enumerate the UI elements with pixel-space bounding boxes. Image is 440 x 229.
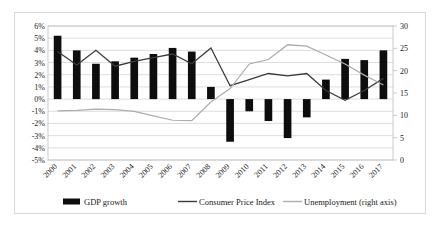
legend-swatch-bar bbox=[63, 199, 80, 205]
y-axis-tick-label: -1% bbox=[32, 107, 46, 116]
y-axis-tick-label: 5% bbox=[34, 34, 45, 43]
y-axis-tick-label: -2% bbox=[32, 119, 46, 128]
legend-label: GDP growth bbox=[84, 197, 128, 207]
x-axis-tick-label: 2004 bbox=[118, 162, 136, 180]
legend-label: Unemployment (right axis) bbox=[304, 197, 397, 207]
y2-axis-tick-label: 15 bbox=[400, 89, 408, 98]
x-axis-tick-label: 2014 bbox=[310, 162, 328, 180]
chart-plot-area: 6%5%4%3%2%1%0%-1%-2%-3%-4%-5% 3025201510… bbox=[15, 13, 425, 213]
bar-2002 bbox=[92, 64, 100, 99]
y-axis-tick-label: 4% bbox=[34, 46, 45, 55]
y2-axis-tick-label: 30 bbox=[400, 22, 408, 31]
y-axis-left-labels: 6%5%4%3%2%1%0%-1%-2%-3%-4%-5% bbox=[32, 22, 46, 165]
y-axis-tick-label: 6% bbox=[34, 22, 45, 31]
bar-2013 bbox=[303, 99, 311, 117]
x-axis-tick-label: 2016 bbox=[348, 162, 366, 180]
y2-axis-tick-label: 20 bbox=[400, 67, 408, 76]
x-axis-tick-label: 2008 bbox=[195, 162, 213, 180]
x-axis-tick-label: 2011 bbox=[252, 162, 269, 179]
x-axis-tick-label: 2002 bbox=[80, 162, 98, 180]
bar-2004 bbox=[130, 58, 138, 99]
x-axis-tick-label: 2003 bbox=[99, 162, 117, 180]
bar-2017 bbox=[380, 50, 388, 99]
line-unemployment-right-axis bbox=[58, 45, 384, 121]
legend-label: Consumer Price Index bbox=[199, 197, 276, 207]
y-axis-right-labels: 302520151050 bbox=[393, 22, 408, 165]
chart-container: 6%5%4%3%2%1%0%-1%-2%-3%-4%-5% 3025201510… bbox=[14, 12, 426, 214]
bar-2005 bbox=[150, 54, 158, 99]
bar-2016 bbox=[360, 60, 368, 99]
bar-2003 bbox=[111, 61, 119, 99]
line-consumer-price-index bbox=[58, 48, 384, 100]
x-axis-tick-label: 2001 bbox=[60, 162, 78, 180]
x-axis-tick-label: 2015 bbox=[329, 162, 347, 180]
bar-2001 bbox=[73, 50, 81, 99]
y-axis-tick-label: 1% bbox=[34, 83, 45, 92]
y2-axis-tick-label: 10 bbox=[400, 111, 408, 120]
bar-2012 bbox=[284, 99, 292, 138]
y-axis-tick-label: -3% bbox=[32, 132, 46, 141]
y2-axis-tick-label: 5 bbox=[400, 134, 404, 143]
x-axis-labels: 2000200120022003200420052006200720082009… bbox=[41, 162, 385, 180]
gdp-growth-bars bbox=[54, 36, 388, 142]
x-axis-tick-label: 2009 bbox=[214, 162, 232, 180]
y-axis-tick-label: -4% bbox=[32, 144, 46, 153]
bar-2007 bbox=[188, 52, 196, 100]
x-axis-tick-label: 2017 bbox=[367, 162, 385, 180]
y2-axis-tick-label: 25 bbox=[400, 44, 408, 53]
chart-legend: GDP growthConsumer Price IndexUnemployme… bbox=[63, 197, 397, 207]
y-axis-tick-label: 2% bbox=[34, 71, 45, 80]
x-axis-tick-label: 2010 bbox=[233, 162, 251, 180]
bar-2010 bbox=[245, 99, 253, 111]
bar-2009 bbox=[226, 99, 234, 142]
bar-2000 bbox=[54, 36, 62, 99]
x-axis-tick-label: 2013 bbox=[290, 162, 308, 180]
x-axis-tick-label: 2007 bbox=[175, 162, 193, 180]
y2-axis-tick-label: 0 bbox=[400, 156, 404, 165]
bar-2011 bbox=[265, 99, 273, 121]
line-series-group bbox=[58, 45, 384, 121]
y-axis-tick-label: 0% bbox=[34, 95, 45, 104]
x-axis-tick-label: 2012 bbox=[271, 162, 289, 180]
bar-2008 bbox=[207, 87, 215, 99]
x-axis-tick-label: 2005 bbox=[137, 162, 155, 180]
y-axis-tick-label: 3% bbox=[34, 59, 45, 68]
y-axis-tick-label: -5% bbox=[32, 156, 46, 165]
x-axis-tick-label: 2006 bbox=[156, 162, 174, 180]
economic-indicators-chart: 6%5%4%3%2%1%0%-1%-2%-3%-4%-5% 3025201510… bbox=[15, 13, 425, 213]
bar-2014 bbox=[322, 80, 330, 99]
